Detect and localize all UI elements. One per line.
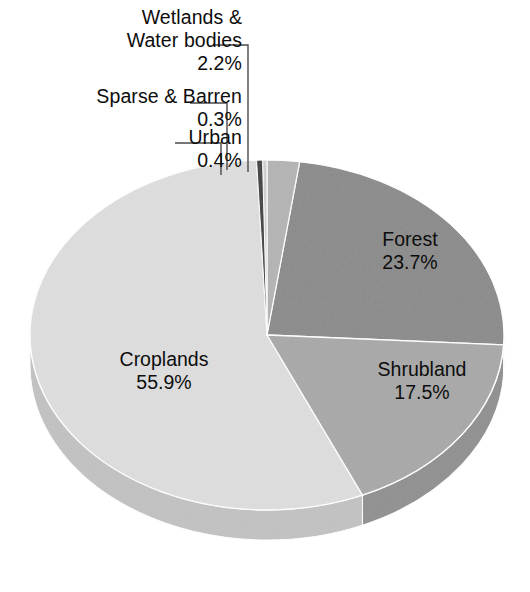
callout-wetlands-percent: 2.2% <box>42 52 242 75</box>
callout-wetlands: Wetlands & Water bodies 2.2% <box>42 6 242 75</box>
slice-label-shrubland: Shrubland 17.5% <box>352 358 492 405</box>
callout-wetlands-line1: Wetlands & <box>42 6 242 29</box>
slice-label-shrubland-percent: 17.5% <box>352 381 492 404</box>
callout-sparse-barren: Sparse & Barren 0.3% <box>22 85 242 131</box>
slice-label-shrubland-name: Shrubland <box>352 358 492 381</box>
slice-label-forest-name: Forest <box>350 228 470 251</box>
callout-sparse-label: Sparse & Barren <box>22 85 242 108</box>
slice-label-croplands-name: Croplands <box>84 348 244 371</box>
callout-urban-percent: 0.4% <box>62 149 242 172</box>
slice-label-forest-percent: 23.7% <box>350 251 470 274</box>
callout-urban: Urban 0.4% <box>62 126 242 172</box>
callout-urban-label: Urban <box>62 126 242 149</box>
pie-chart-figure: Wetlands & Water bodies 2.2% Sparse & Ba… <box>0 0 530 592</box>
callout-wetlands-line2: Water bodies <box>42 29 242 52</box>
slice-label-croplands-percent: 55.9% <box>84 371 244 394</box>
slice-label-forest: Forest 23.7% <box>350 228 470 275</box>
slice-label-croplands: Croplands 55.9% <box>84 348 244 395</box>
